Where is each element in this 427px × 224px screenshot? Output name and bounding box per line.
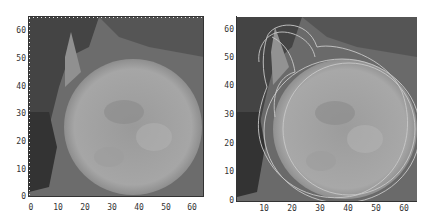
left-x-tick: 40 (131, 204, 147, 212)
left-y-tick: 0 (12, 193, 26, 201)
left-y-tick: 20 (12, 138, 26, 146)
left-x-tick: 20 (77, 204, 93, 212)
left-plot-panel: 60 50 40 30 20 10 0 0 10 20 30 40 50 60 (0, 0, 213, 224)
right-y-tick: 0 (220, 197, 234, 205)
right-x-tick: 60 (396, 205, 412, 213)
right-y-tick: 40 (220, 82, 234, 90)
right-plot-panel: 60 50 40 30 20 10 0 10 20 30 40 50 60 (213, 0, 427, 224)
right-y-tick: 30 (220, 111, 234, 119)
right-y-tick: 20 (220, 140, 234, 148)
left-x-tick: 50 (158, 204, 174, 212)
left-y-tick: 60 (12, 27, 26, 35)
left-plot-frame (28, 16, 204, 197)
right-plot-frame (236, 16, 417, 202)
left-y-tick: 50 (12, 55, 26, 63)
left-y-tick: 40 (12, 83, 26, 91)
left-x-tick: 30 (104, 204, 120, 212)
left-y-tick: 30 (12, 110, 26, 118)
right-x-tick: 30 (312, 205, 328, 213)
right-x-tick: 10 (256, 205, 272, 213)
right-y-tick: 10 (220, 168, 234, 176)
left-x-tick: 10 (50, 204, 66, 212)
right-x-tick: 50 (368, 205, 384, 213)
left-x-tick: 0 (23, 204, 39, 212)
right-x-tick: 20 (284, 205, 300, 213)
right-y-tick: 50 (220, 54, 234, 62)
left-x-tick: 60 (184, 204, 200, 212)
right-y-tick: 60 (220, 26, 234, 34)
right-x-tick: 40 (340, 205, 356, 213)
left-y-tick: 10 (12, 166, 26, 174)
